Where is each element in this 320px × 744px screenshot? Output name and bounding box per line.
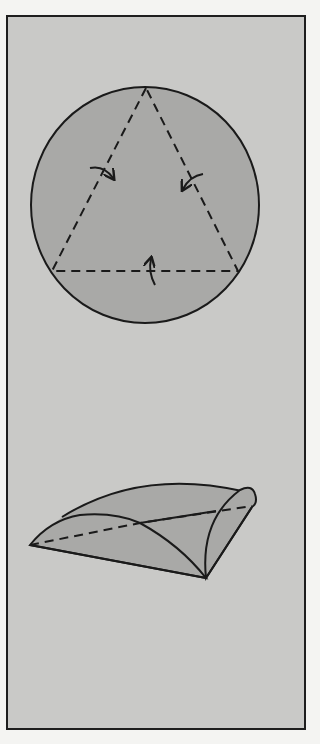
step-2-folded-shape (30, 484, 256, 578)
illustration-page (0, 0, 320, 744)
fold-diagram (0, 0, 320, 744)
paper-circle (31, 87, 259, 323)
step-1-circle-diagram (31, 87, 259, 323)
